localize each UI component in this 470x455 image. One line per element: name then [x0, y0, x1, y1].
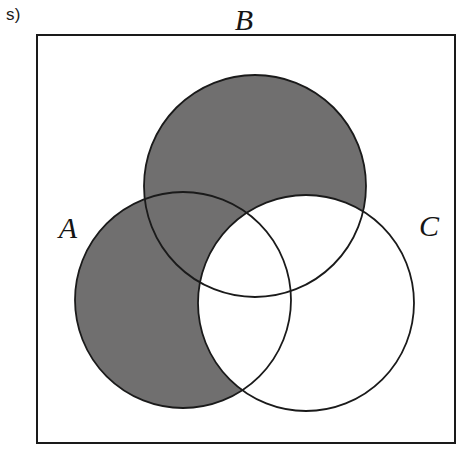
set-label-b: B	[235, 3, 253, 36]
set-label-a: A	[57, 211, 78, 244]
venn-diagram-figure: s) A B C	[0, 0, 470, 455]
venn-diagram-canvas: A B C	[0, 0, 470, 455]
set-label-c: C	[419, 209, 440, 242]
